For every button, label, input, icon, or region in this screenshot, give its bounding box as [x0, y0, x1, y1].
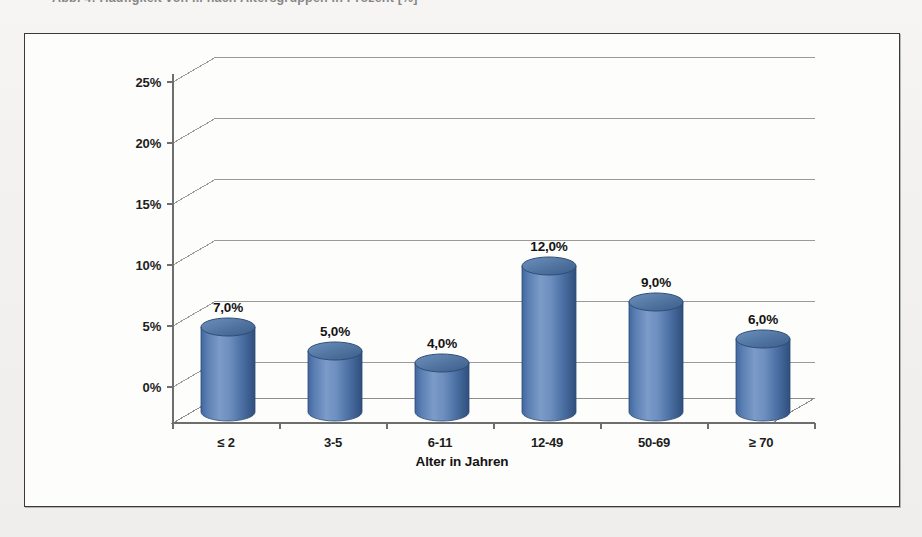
figure-caption: Abb. 4: Häufigkeit von ... nach Altersgr…: [52, 0, 852, 7]
x-axis: [173, 423, 815, 429]
y-tick-label: 20%: [99, 136, 161, 151]
y-tick-label: 25%: [99, 75, 161, 90]
bar-cylinder: [201, 318, 255, 421]
chart-plot-area: 25% 20% 15% 10% 5% 0% 7,0% 5,0% 4,0% 12,…: [25, 34, 899, 506]
floor-plane: [173, 398, 815, 423]
bar-value-label: 6,0%: [723, 312, 803, 327]
bar-cylinder: [736, 330, 790, 421]
y-tick-label: 15%: [99, 197, 161, 212]
bar-cylinder: [629, 293, 683, 421]
bar-value-label: 5,0%: [295, 324, 375, 339]
y-tick-label: 5%: [99, 319, 161, 334]
y-tick-label: 10%: [99, 258, 161, 273]
x-tick-label: 50-69: [599, 435, 709, 450]
x-tick-label: 12-49: [492, 435, 602, 450]
x-tick-label: 6-11: [385, 435, 495, 450]
x-tick-label: ≥ 70: [706, 435, 816, 450]
bar-value-label: 12,0%: [509, 239, 589, 254]
bar-cylinder: [308, 342, 362, 421]
y-tick-label: 0%: [99, 380, 161, 395]
y-axis: [167, 74, 173, 423]
chart-frame: 25% 20% 15% 10% 5% 0% 7,0% 5,0% 4,0% 12,…: [24, 33, 900, 507]
x-axis-title: Alter in Jahren: [25, 454, 899, 469]
bar-cylinder: [415, 354, 469, 421]
gridlines: [173, 57, 815, 387]
bar-value-label: 9,0%: [616, 275, 696, 290]
x-tick-label: 3-5: [278, 435, 388, 450]
bar-cylinder: [522, 257, 576, 421]
bar-value-label: 4,0%: [402, 336, 482, 351]
bar-value-label: 7,0%: [188, 300, 268, 315]
x-tick-label: ≤ 2: [171, 435, 281, 450]
